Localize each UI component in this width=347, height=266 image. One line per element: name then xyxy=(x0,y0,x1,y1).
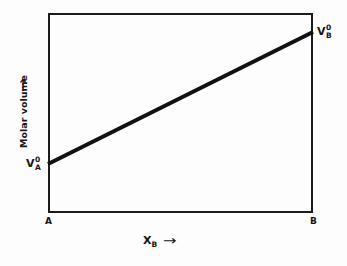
y-axis-title: ↑ Molar volume xyxy=(4,78,38,198)
endpoint-label-vb-base: V xyxy=(317,26,326,37)
x-axis-title-symbol: XB xyxy=(143,235,157,246)
arrow-right-icon: → xyxy=(163,234,177,247)
x-axis-title: XB → xyxy=(143,234,175,247)
x-axis-left-endpoint-label: A xyxy=(45,216,52,226)
endpoint-label-vb-subscript: B xyxy=(326,32,332,40)
ideal-solution-line xyxy=(48,32,313,164)
y-axis-title-label: Molar volume xyxy=(18,69,29,155)
x-axis-right-endpoint-label: B xyxy=(310,216,317,226)
endpoint-label-vb: V 0 B xyxy=(317,20,332,39)
data-line-svg xyxy=(48,13,313,213)
x-axis-title-subscript: B xyxy=(151,240,157,249)
molar-volume-figure: V 0 A V 0 B A B XB → ↑ Molar volume xyxy=(0,0,347,266)
